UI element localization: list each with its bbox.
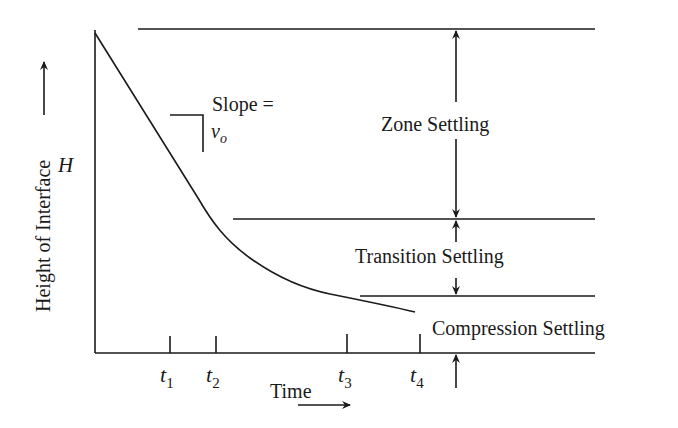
svg-text:t4: t4 [410, 362, 424, 391]
transition-settling-label: Transition Settling [355, 245, 504, 268]
settling-curve [95, 33, 415, 312]
x-axis-label: Time [270, 380, 312, 402]
y-axis-label: Height of Interface [32, 160, 55, 312]
y-symbol: H [57, 153, 75, 177]
svg-text:t3: t3 [338, 362, 352, 391]
svg-text:t2: t2 [206, 362, 220, 391]
svg-text:vo: vo [211, 120, 227, 146]
slope-label: Slope = [212, 93, 274, 116]
x-ticks [170, 334, 420, 353]
slope-marker [170, 115, 203, 152]
svg-text:t1: t1 [160, 362, 174, 391]
settling-diagram: t1 t2 t3 t4 Time Height of Interface H S… [0, 0, 678, 428]
compression-settling-label: Compression Settling [432, 317, 605, 340]
zone-settling-label: Zone Settling [381, 113, 489, 136]
